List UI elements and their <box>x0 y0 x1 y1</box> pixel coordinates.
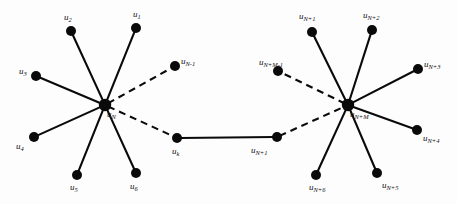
node-label-u3: u3 <box>19 67 27 76</box>
node-label-uk: uk <box>172 147 179 156</box>
node-label-uNpMm1: uN+M-1 <box>259 58 283 67</box>
node-label-uN: uN <box>107 110 116 119</box>
graph-node-uNp1b <box>272 132 282 142</box>
graph-node-u4 <box>29 132 39 142</box>
node-label-u4: u4 <box>16 142 24 151</box>
graph-node-u2 <box>66 26 76 36</box>
node-label-uNpM: uN+M <box>350 110 369 119</box>
node-label-uNp2: uN+2 <box>363 11 379 20</box>
node-label-uNp1: uN+1 <box>299 12 315 21</box>
graph-edge-uN-u4 <box>37 106 102 135</box>
node-label-uNp3: uN+3 <box>424 60 440 69</box>
graph-node-u1 <box>131 23 141 33</box>
graph-node-uk <box>172 133 182 143</box>
graph-node-uNp4 <box>412 125 422 135</box>
graph-edge-uN-u5 <box>78 108 104 172</box>
edge-layer <box>37 31 416 173</box>
graph-node-u5 <box>72 170 82 180</box>
graph-node-uNp3 <box>413 64 423 74</box>
graph-edge-uNpM-uNp6 <box>317 108 346 172</box>
graph-node-u6 <box>131 168 141 178</box>
node-label-uNm1: uN-1 <box>181 57 195 66</box>
graph-edge-uN-u3 <box>39 77 102 104</box>
graph-node-u3 <box>31 71 41 81</box>
graph-diagram: u2u1u3u4u5u6uNuN-1ukuN+1uN+M-1uN+1uN+2uN… <box>0 0 457 204</box>
node-label-u2: u2 <box>64 13 72 22</box>
graph-edge-uNpM-uNp2 <box>349 33 371 102</box>
node-label-uNp6: uN+6 <box>309 183 325 192</box>
graph-canvas <box>0 0 457 204</box>
graph-node-uNp5 <box>372 168 382 178</box>
node-label-u5: u5 <box>70 183 78 192</box>
graph-edge-uNpM-uNp1 <box>313 34 346 101</box>
node-label-uNp5: uN+5 <box>382 181 398 190</box>
graph-edge-uN-u2 <box>72 33 103 101</box>
graph-node-uNp1 <box>307 27 317 37</box>
node-label-uNp1b: uN+1 <box>251 146 267 155</box>
node-label-uNp4: uN+4 <box>423 134 439 143</box>
graph-node-uNp6 <box>311 170 321 180</box>
graph-edge-uNpM-uNp3 <box>351 70 416 103</box>
graph-node-uNp2 <box>367 25 377 35</box>
node-label-u6: u6 <box>130 182 138 191</box>
graph-edge-uk-uNp1b <box>180 137 275 138</box>
node-layer <box>29 23 423 180</box>
node-label-u1: u1 <box>133 10 141 19</box>
graph-node-uNm1 <box>170 61 180 71</box>
